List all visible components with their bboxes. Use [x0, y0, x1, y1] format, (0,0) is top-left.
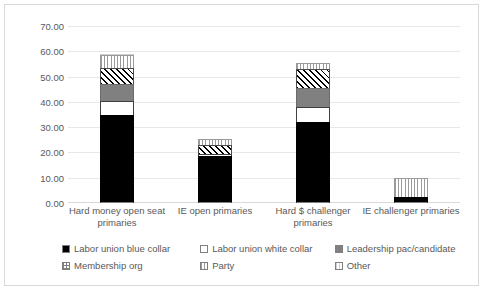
- y-axis-tick-label: 10.00: [4, 172, 64, 183]
- legend-item-label: Membership org: [74, 260, 143, 271]
- bar-group: [362, 26, 460, 203]
- vstripe-swatch-icon: [200, 262, 208, 270]
- bar-segment[interactable]: [296, 69, 330, 88]
- vlight-swatch-icon: [335, 262, 343, 270]
- legend-item-label: Labor union blue collar: [74, 243, 170, 254]
- y-axis-tick-label: 40.00: [4, 96, 64, 107]
- y-axis-tick-label: 50.00: [4, 71, 64, 82]
- bar-segment[interactable]: [198, 156, 232, 203]
- bar-segment[interactable]: [394, 178, 428, 197]
- bars-layer: [68, 26, 460, 203]
- x-axis-tick-label: Hard $ challenger primaries: [264, 205, 362, 229]
- legend-row: Labor union blue collar Labor union whit…: [62, 240, 462, 257]
- bar-segment[interactable]: [100, 55, 134, 68]
- bar-segment[interactable]: [296, 122, 330, 203]
- stacked-bar[interactable]: [198, 139, 232, 203]
- y-axis-tick-label: 20.00: [4, 147, 64, 158]
- x-axis-tick-label: Hard money open seat primaries: [68, 205, 166, 229]
- stacked-bar[interactable]: [100, 54, 134, 203]
- legend-item-other[interactable]: Other: [335, 260, 462, 271]
- bar-segment[interactable]: [198, 145, 232, 154]
- chart-container: 0.0010.0020.0030.0040.0050.0060.0070.00 …: [0, 0, 483, 290]
- legend-item-label: Labor union white collar: [212, 243, 312, 254]
- y-axis-tick-label: 60.00: [4, 46, 64, 57]
- bar-segment[interactable]: [100, 84, 134, 100]
- x-axis-labels: Hard money open seat primariesIE open pr…: [68, 205, 460, 233]
- bar-segment[interactable]: [296, 107, 330, 122]
- white-swatch-icon: [200, 245, 208, 253]
- crosshatch-swatch-icon: [62, 262, 70, 270]
- legend-item-label: Other: [347, 260, 371, 271]
- bar-group: [166, 26, 264, 203]
- legend-item-labor-union-blue-collar[interactable]: Labor union blue collar: [62, 243, 200, 254]
- y-axis: 0.0010.0020.0030.0040.0050.0060.0070.00: [0, 26, 64, 203]
- legend-item-membership-org[interactable]: Membership org: [62, 260, 200, 271]
- x-axis-tick-label: IE challenger primaries: [362, 205, 460, 217]
- bar-group: [264, 26, 362, 203]
- solid-black-swatch-icon: [62, 245, 70, 253]
- stacked-bar[interactable]: [296, 63, 330, 203]
- bar-segment[interactable]: [100, 68, 134, 84]
- legend-item-party[interactable]: Party: [200, 260, 335, 271]
- gray-swatch-icon: [335, 245, 343, 253]
- bar-segment[interactable]: [100, 115, 134, 204]
- y-axis-tick-label: 0.00: [4, 198, 64, 209]
- bar-segment[interactable]: [296, 88, 330, 107]
- legend-row: Membership org Party Other: [62, 257, 462, 274]
- chart-legend: Labor union blue collar Labor union whit…: [62, 240, 462, 274]
- legend-item-label: Leadership pac/candidate: [347, 243, 456, 254]
- stacked-bar[interactable]: [394, 178, 428, 203]
- y-axis-tick-label: 30.00: [4, 122, 64, 133]
- bar-segment[interactable]: [100, 101, 134, 115]
- legend-item-leadership-pac-candidate[interactable]: Leadership pac/candidate: [335, 243, 462, 254]
- y-axis-tick-label: 70.00: [4, 21, 64, 32]
- bar-segment[interactable]: [394, 197, 428, 203]
- legend-item-label: Party: [212, 260, 234, 271]
- legend-item-labor-union-white-collar[interactable]: Labor union white collar: [200, 243, 335, 254]
- x-axis-tick-label: IE open primaries: [166, 205, 264, 217]
- bar-group: [68, 26, 166, 203]
